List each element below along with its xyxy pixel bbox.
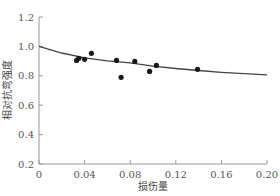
data-point xyxy=(195,67,200,72)
x-tick-label: 0.16 xyxy=(210,169,232,180)
data-points xyxy=(74,51,200,80)
x-tick-label: 0.08 xyxy=(119,169,141,180)
x-tick-label: 0.12 xyxy=(165,169,187,180)
x-tick-label: 0.20 xyxy=(256,169,278,180)
data-point xyxy=(82,57,87,62)
data-point xyxy=(76,56,81,61)
x-axis-title: 损伤量 xyxy=(138,180,168,192)
y-tick-label: 0.8 xyxy=(18,70,34,81)
y-tick-label: 0.4 xyxy=(18,129,34,140)
data-point xyxy=(114,58,119,63)
data-point xyxy=(89,51,94,56)
data-point xyxy=(147,69,152,74)
x-tick-label: 0 xyxy=(36,169,42,180)
fit-curve xyxy=(39,46,267,75)
chart: 0.20.40.60.81.01.2 00.040.080.120.160.20… xyxy=(0,0,280,196)
data-point xyxy=(154,63,159,68)
y-tick-label: 0.2 xyxy=(18,159,34,170)
y-tick-label: 1.0 xyxy=(18,41,34,52)
data-point xyxy=(132,59,137,64)
y-tick-label: 0.6 xyxy=(18,100,34,111)
x-axis: 00.040.080.120.160.20 xyxy=(36,160,278,180)
x-tick-label: 0.04 xyxy=(73,169,95,180)
y-axis-title: 相对抗弯强度 xyxy=(1,60,13,120)
data-point xyxy=(119,75,124,80)
y-axis: 0.20.40.60.81.01.2 xyxy=(18,12,43,170)
y-tick-label: 1.2 xyxy=(18,12,34,23)
